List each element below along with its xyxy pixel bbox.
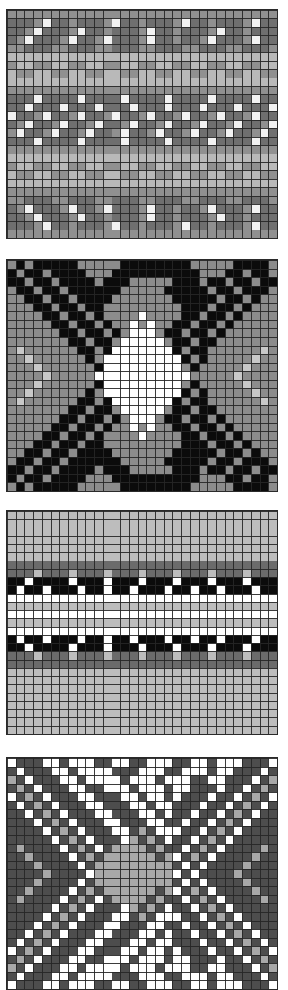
- panel-4-grid: [6, 757, 278, 990]
- panel-3-canvas: [7, 511, 277, 734]
- panel-4-canvas: [7, 758, 277, 989]
- panel-2-canvas: [7, 260, 277, 491]
- pattern-panel-stack: [0, 0, 288, 990]
- panel-1-grid: [6, 9, 278, 239]
- panel-1-canvas: [7, 10, 277, 238]
- panel-3-grid: [6, 510, 278, 735]
- panel-2-grid: [6, 259, 278, 492]
